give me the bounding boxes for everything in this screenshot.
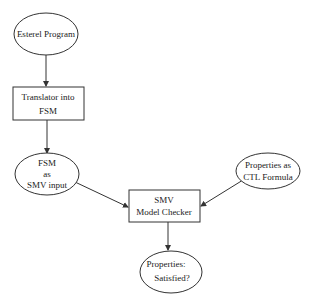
node-label: as bbox=[43, 169, 51, 179]
node-smv-model-checker: SMV Model Checker bbox=[129, 190, 200, 222]
edge-ctl-to-smv bbox=[201, 180, 243, 206]
node-fsm-smv-input: FSM as SMV input bbox=[15, 153, 79, 195]
node-label: Translator into bbox=[22, 92, 75, 102]
edge-fsm-to-smv bbox=[75, 182, 128, 207]
node-translator: Translator into FSM bbox=[13, 87, 84, 120]
node-label: Model Checker bbox=[136, 207, 192, 217]
node-label: Satisfied? bbox=[154, 273, 190, 283]
node-label: FSM bbox=[39, 106, 57, 116]
node-label: Properties as bbox=[245, 160, 292, 170]
node-label: SMV input bbox=[27, 180, 68, 190]
node-label: Properties: bbox=[147, 259, 186, 269]
node-label: FSM bbox=[38, 158, 56, 168]
flowchart-canvas: Esterel Program Translator into FSM FSM … bbox=[0, 0, 314, 301]
node-ctl-formula: Properties as CTL Formula bbox=[236, 153, 300, 189]
node-esterel-program: Esterel Program bbox=[14, 13, 78, 55]
node-label: CTL Formula bbox=[243, 172, 292, 182]
node-label: SMV bbox=[154, 195, 174, 205]
node-label: Esterel Program bbox=[17, 29, 75, 39]
node-properties-satisfied: Properties: Satisfied? bbox=[140, 251, 202, 293]
